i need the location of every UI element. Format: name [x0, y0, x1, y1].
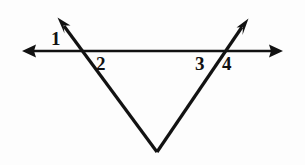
- left-ray: [58, 18, 158, 153]
- angle-label-3: 3: [195, 54, 205, 73]
- horizontal-line-right-arrowhead: [269, 45, 283, 58]
- horizontal-line-left-arrowhead: [22, 45, 36, 58]
- geometry-figure: 1 2 3 4: [0, 0, 305, 165]
- angle-label-4: 4: [222, 54, 232, 73]
- angle-label-2: 2: [96, 54, 106, 73]
- right-ray-shaft: [157, 27, 242, 152]
- geometry-canvas: [0, 0, 305, 165]
- horizontal-line: [22, 45, 283, 58]
- right-ray: [157, 19, 249, 153]
- angle-label-1: 1: [51, 29, 61, 48]
- left-ray-shaft: [64, 26, 157, 152]
